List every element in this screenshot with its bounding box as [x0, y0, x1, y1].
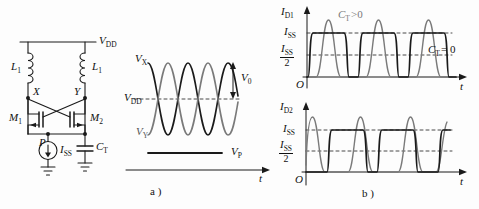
- m1-source-arrow: [30, 123, 36, 127]
- vp-level-label: VP: [231, 146, 242, 159]
- inductor-left-label: L1: [11, 61, 21, 74]
- circuit-schematic: [20, 42, 96, 175]
- inductor-left-coil: [28, 53, 33, 83]
- id2-y-axis-arrow: [303, 102, 309, 110]
- v0-amplitude-label: V0: [241, 72, 251, 85]
- id2-axis-label: ID2: [280, 101, 293, 114]
- panel-b-bottom-plot: [302, 102, 467, 185]
- m1-label: M1: [9, 112, 22, 125]
- m1-source-wire: [28, 125, 39, 134]
- node-x-label: X: [33, 86, 40, 97]
- vx-curve-label: VX: [135, 53, 147, 66]
- time-axis-a-arrow: [262, 167, 270, 173]
- m2-source-wire: [74, 125, 85, 134]
- current-source-arrow-head: [45, 153, 51, 158]
- inductor-right-label: L1: [92, 61, 102, 74]
- inductor-right-coil: [80, 53, 85, 83]
- node-y-label: Y: [74, 86, 80, 97]
- id1-y-axis-arrow: [304, 6, 310, 14]
- id1-time-label: t: [460, 81, 463, 92]
- id2-ct-positive-curve: [306, 117, 447, 172]
- panel-b-caption: b ): [362, 188, 374, 199]
- ct-zero-annotation: CT= 0: [428, 44, 455, 57]
- id1-iss-level-label: ISS: [284, 26, 296, 39]
- vdd-level-label: VDD: [124, 92, 142, 105]
- panel-a-time-label: t: [259, 173, 262, 184]
- ground-symbol-right: [78, 163, 92, 171]
- ct-positive-annotation: CT>0: [338, 9, 363, 22]
- panel-a-caption: a ): [150, 186, 161, 197]
- id1-iss-over-2-label: ISS 2: [280, 43, 294, 69]
- capacitor-plates: [77, 146, 93, 151]
- vdd-supply-label: VDD: [99, 35, 117, 48]
- figure-line-art: [0, 0, 479, 209]
- id2-time-label: t: [460, 176, 463, 187]
- id2-iss-level-label: ISS: [283, 123, 295, 136]
- ct-capacitor-label: CT: [96, 141, 108, 154]
- vy-curve-label: VY: [136, 126, 148, 139]
- node-p-label: P: [39, 137, 46, 148]
- m2-drain-wire: [74, 98, 85, 114]
- id2-origin-label: O: [295, 174, 303, 185]
- m1-drain-wire: [28, 98, 39, 114]
- id2-iss-over-2-label: ISS 2: [279, 139, 293, 165]
- id1-axis-label: ID1: [281, 6, 294, 19]
- ground-symbol-left: [41, 167, 55, 175]
- v0-arrow-head-bottom: [230, 92, 236, 99]
- m2-label: M2: [90, 112, 103, 125]
- iss-source-label: ISS: [60, 144, 72, 157]
- m2-source-arrow: [77, 123, 83, 127]
- id1-origin-label: O: [296, 79, 304, 90]
- textbook-figure: VDD L1 L1 X Y M1 M2 P ISS CT VX VDD VY V…: [0, 0, 479, 209]
